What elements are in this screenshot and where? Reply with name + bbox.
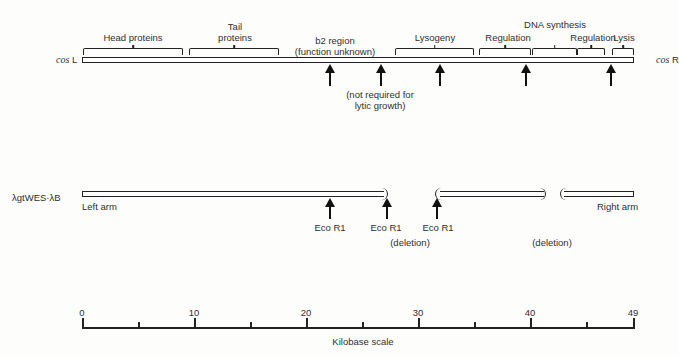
- bracket-dna-synthesis: [532, 48, 577, 55]
- ecori-site-label: Eco R1: [366, 222, 406, 233]
- cut-end-middle-end: [538, 188, 546, 200]
- cos-left-prefix: cos: [56, 54, 69, 65]
- annotation-not-required-1: (not required for: [340, 89, 420, 100]
- label-head-proteins: Head proteins: [90, 32, 176, 43]
- scale-tick: [194, 318, 196, 328]
- label-b2-region-1: b2 region: [290, 35, 380, 46]
- cos-left-label: cos L: [56, 54, 77, 65]
- bracket-lysis: [612, 48, 634, 55]
- ecori-site-label: Eco R1: [310, 222, 350, 233]
- bracket-regulation-1: [479, 48, 531, 55]
- annotation-not-required-2: lytic growth): [340, 100, 420, 111]
- cos-right-suffix: R: [672, 54, 679, 65]
- scale-tick: [633, 318, 635, 328]
- label-lysogeny: Lysogeny: [395, 32, 475, 43]
- scale-tick: [306, 318, 308, 328]
- label-regulation-1: Regulation: [478, 32, 538, 43]
- middle-fragment-bar: [440, 191, 544, 197]
- left-arm-label: Left arm: [82, 201, 117, 212]
- arrow-up-icon: [381, 198, 393, 219]
- scale-tick: [250, 322, 252, 328]
- right-arm-label: Right arm: [597, 201, 638, 212]
- scale-axis-line: [82, 327, 635, 329]
- left-arm-bar: [82, 191, 384, 197]
- scale-tick: [530, 318, 532, 328]
- arrow-up-icon: [324, 64, 336, 86]
- arrow-up-icon: [520, 64, 532, 86]
- scale-tick-label: 40: [520, 307, 540, 318]
- scale-axis-label: Kilobase scale: [318, 336, 408, 347]
- scale-tick: [82, 318, 84, 328]
- scale-tick-label: 20: [296, 307, 316, 318]
- arrow-up-icon: [605, 64, 617, 86]
- arrow-up-icon: [431, 198, 443, 219]
- arrow-up-icon: [324, 198, 336, 219]
- deletion-label: (deletion): [385, 237, 435, 248]
- bracket-tail-proteins: [189, 48, 279, 55]
- ecori-site-label: Eco R1: [418, 222, 458, 233]
- scale-tick-label: 0: [72, 307, 92, 318]
- label-tail-proteins-2: proteins: [195, 32, 275, 43]
- right-arm-bar: [564, 191, 634, 197]
- scale-tick: [362, 322, 364, 328]
- scale-tick-label: 30: [408, 307, 428, 318]
- lambda-genome-bar: [82, 57, 634, 63]
- label-lysis: Lysis: [610, 32, 638, 43]
- scale-tick: [474, 322, 476, 328]
- deletion-label: (deletion): [527, 237, 577, 248]
- label-dna-synthesis: DNA synthesis: [510, 19, 600, 30]
- cos-right-prefix: cos: [656, 54, 669, 65]
- bracket-regulation-2: [577, 48, 605, 55]
- scale-tick: [138, 322, 140, 328]
- cos-left-suffix: L: [72, 54, 77, 65]
- arrow-up-icon: [434, 64, 446, 86]
- scale-tick: [418, 318, 420, 328]
- scale-tick-label: 10: [184, 307, 204, 318]
- arrow-up-icon: [375, 64, 387, 86]
- bracket-head-proteins: [83, 48, 183, 55]
- label-b2-region-2: (function unknown): [290, 46, 380, 57]
- scale-tick: [586, 322, 588, 328]
- vector-name: λgtWES·λB: [12, 192, 61, 203]
- cos-right-label: cos R: [656, 54, 679, 65]
- bracket-lysogeny: [395, 48, 474, 55]
- scale-tick-label: 49: [623, 307, 643, 318]
- label-tail-proteins-1: Tail: [195, 21, 275, 32]
